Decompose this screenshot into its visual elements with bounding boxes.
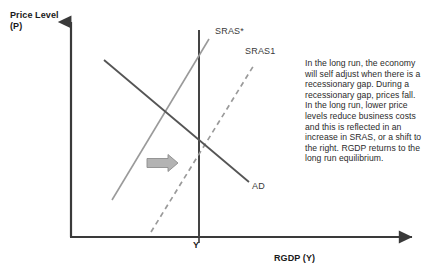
sras-star-label: SRAS*	[215, 26, 244, 36]
explanation-text: In the long run, the economy will self a…	[305, 58, 423, 164]
diagram-canvas: Price Level (P) RGDP (Y) SRAS* SRAS1 AD …	[0, 0, 425, 278]
shift-arrow-icon	[147, 155, 178, 172]
y-axis-label: Price Level (P)	[10, 10, 59, 32]
sras1-label: SRAS1	[245, 46, 276, 56]
ad-label: AD	[252, 181, 265, 191]
sras-star-curve	[112, 39, 209, 200]
x-axis-label: RGDP (Y)	[274, 253, 315, 264]
sras1-curve	[151, 65, 254, 232]
output-tick-label: Y	[193, 240, 199, 250]
